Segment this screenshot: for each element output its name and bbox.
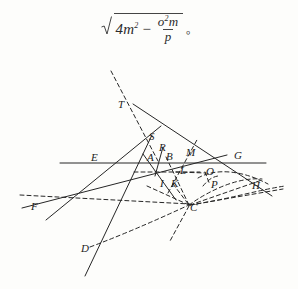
point-label-D: D bbox=[81, 243, 89, 254]
solid-lines-group bbox=[22, 104, 272, 276]
point-label-L: L bbox=[180, 165, 186, 176]
point-label-B: B bbox=[166, 151, 173, 162]
dashed-horizontal-FC bbox=[20, 195, 190, 204]
point-label-O: O bbox=[206, 166, 214, 177]
point-label-G: G bbox=[234, 150, 242, 161]
point-label-T: T bbox=[118, 99, 124, 110]
point-label-R: R bbox=[159, 142, 166, 153]
dashed-C-down bbox=[170, 206, 189, 241]
point-label-P: P bbox=[211, 179, 218, 190]
line-E-through-S-up bbox=[46, 126, 161, 220]
point-label-I: I bbox=[160, 178, 164, 189]
point-label-F: F bbox=[31, 201, 38, 212]
point-label-H: H bbox=[252, 180, 260, 191]
diagram-page: 4m2 − o2m p 。 TSREABMGLOIKPHFCD bbox=[0, 0, 298, 289]
point-label-A: A bbox=[147, 152, 154, 163]
point-label-E: E bbox=[91, 152, 98, 163]
point-label-S: S bbox=[149, 131, 155, 142]
point-label-K: K bbox=[171, 178, 178, 189]
arc-D-to-C bbox=[90, 205, 189, 247]
point-label-C: C bbox=[190, 202, 197, 213]
point-label-M: M bbox=[186, 147, 195, 158]
geometry-figure bbox=[0, 0, 298, 289]
